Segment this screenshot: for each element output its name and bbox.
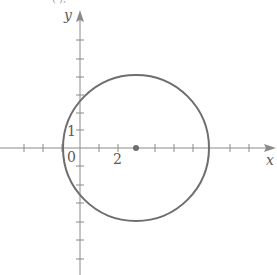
x-axis-label: x (266, 153, 274, 167)
coordinate-plane (0, 0, 277, 275)
y-axis-label: y (64, 8, 72, 22)
center-point (133, 145, 139, 151)
y-tick-label-1: 1 (67, 124, 76, 138)
top-cutoff-text: ( ), (52, 0, 66, 4)
y-axis (76, 18, 84, 275)
origin-label: 0 (67, 150, 76, 164)
x-tick-label-2: 2 (113, 152, 122, 166)
